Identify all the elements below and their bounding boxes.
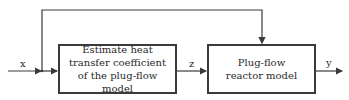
reactor-label: Plug-flow reactor model: [209, 56, 314, 82]
estimator-label: Estimate heat transfer coefficient of th…: [60, 43, 175, 95]
reactor-block: Plug-flow reactor model: [207, 44, 316, 94]
intermediate-label-z: z: [189, 59, 194, 69]
output-label-y: y: [326, 58, 332, 68]
input-label-x: x: [20, 59, 26, 69]
estimator-block: Estimate heat transfer coefficient of th…: [58, 44, 177, 94]
